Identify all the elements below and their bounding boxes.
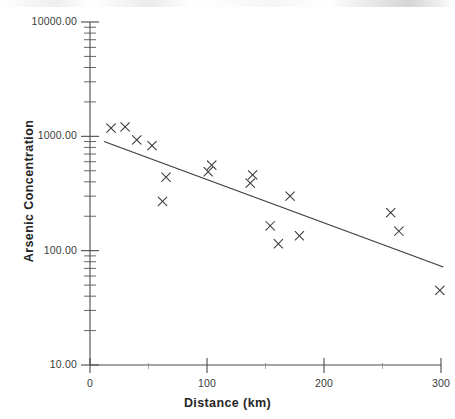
x-axis-tick-label: 200: [294, 377, 354, 389]
data-point-marker: [107, 124, 116, 133]
x-axis-title: Distance (km): [0, 396, 455, 410]
axis-lines: [90, 22, 441, 365]
y-axis-tick-label: 100.00: [44, 244, 77, 256]
x-axis-tick-label: 300: [411, 377, 455, 389]
data-point-marker: [121, 123, 130, 132]
y-axis-tick-label: 10000.00: [32, 15, 77, 27]
y-axis-title: Arsenic Concentration: [22, 101, 36, 281]
x-axis-tick-label: 100: [177, 377, 237, 389]
data-point-marker: [158, 197, 167, 206]
arsenic-concentration-chart: 10000.001000.00100.0010.00 0100200300 Di…: [0, 0, 455, 419]
data-point-marker: [266, 222, 275, 231]
data-point-marker: [246, 179, 255, 188]
plot-canvas: [0, 0, 455, 419]
y-axis-tick-label: 10.00: [50, 358, 77, 370]
data-point-markers: [107, 123, 444, 295]
data-point-marker: [162, 173, 171, 182]
data-point-marker: [274, 239, 283, 248]
data-point-marker: [133, 136, 142, 145]
y-axis-tick-label: 1000.00: [38, 129, 77, 141]
data-point-marker: [386, 208, 395, 217]
x-axis-tick-label: 0: [60, 377, 120, 389]
data-point-marker: [148, 141, 157, 150]
data-point-marker: [395, 227, 404, 236]
data-point-marker: [436, 286, 445, 295]
data-point-marker: [295, 231, 304, 240]
data-point-marker: [286, 192, 295, 201]
data-point-marker: [248, 171, 257, 180]
